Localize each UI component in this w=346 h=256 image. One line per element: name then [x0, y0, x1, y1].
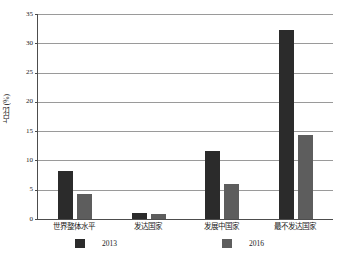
legend-label: 2013: [102, 239, 117, 248]
bar-2016-1: [77, 194, 92, 219]
x-label-1: 世界整体水平: [34, 221, 114, 233]
chart-legend: 20132016: [37, 237, 332, 251]
bars-layer: [38, 14, 333, 219]
legend-swatch-icon: [222, 239, 232, 248]
bar-2013-1: [58, 171, 73, 219]
bar-2016-2: [151, 214, 166, 219]
bar-chart: 占比 (%) 05101520253035 世界整体水平发达国家发展中国家最不发…: [0, 0, 346, 256]
y-tick-label: 20: [14, 98, 33, 105]
legend-swatch-icon: [75, 239, 85, 248]
y-tick-label: 35: [14, 11, 33, 18]
bar-2016-4: [298, 135, 313, 219]
y-tick-label: 25: [14, 69, 33, 76]
y-axis-title: 占比 (%): [0, 78, 14, 138]
x-label-2: 发达国家: [108, 221, 188, 233]
y-tick-label: 5: [14, 186, 33, 193]
y-axis-tick-labels: 05101520253035: [14, 0, 33, 256]
y-tick-label: 10: [14, 157, 33, 164]
x-label-4: 最不发达国家: [255, 221, 335, 233]
x-label-3: 发展中国家: [181, 221, 261, 233]
legend-entry-2016[interactable]: 2016: [222, 237, 264, 249]
x-axis-category-labels: 世界整体水平发达国家发展中国家最不发达国家: [37, 221, 332, 235]
y-tick-label: 30: [14, 40, 33, 47]
bar-2013-3: [205, 151, 220, 219]
bar-2013-2: [132, 213, 147, 219]
plot-area: [37, 14, 333, 220]
y-tick-label: 15: [14, 128, 33, 135]
legend-label: 2016: [249, 239, 264, 248]
bar-2013-4: [279, 30, 294, 219]
bar-2016-3: [224, 184, 239, 219]
legend-entry-2013[interactable]: 2013: [75, 237, 117, 249]
y-tick-label: 0: [14, 216, 33, 223]
y-axis-tick-mark: [35, 219, 38, 220]
